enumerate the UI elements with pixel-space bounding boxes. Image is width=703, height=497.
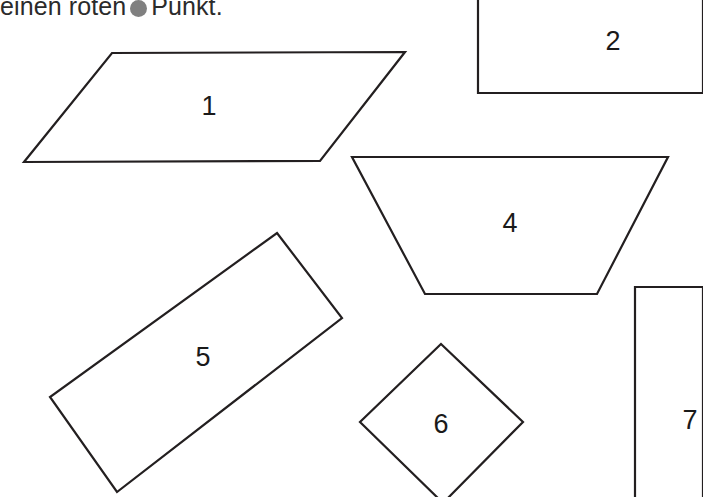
shape-label-7: 7: [682, 407, 697, 434]
shape-7-rectangle[interactable]: [635, 287, 703, 497]
shape-label-2: 2: [605, 28, 620, 55]
shape-label-4: 4: [502, 210, 517, 237]
shapes-canvas: [0, 0, 703, 497]
shape-label-6: 6: [433, 411, 448, 438]
worksheet-page: einen rotenPunkt. 1 2 4 5 6 7: [0, 0, 703, 497]
shape-label-5: 5: [195, 344, 210, 371]
shape-2-rectangle[interactable]: [478, 0, 703, 93]
shape-label-1: 1: [201, 93, 216, 120]
